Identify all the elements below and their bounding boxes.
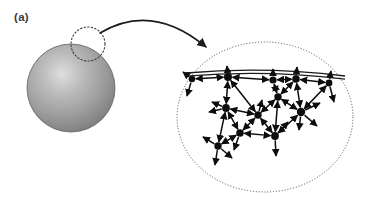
particle-group <box>27 44 115 132</box>
dangling-bond <box>305 115 317 126</box>
figure-panel-a: (a) <box>0 0 369 202</box>
network-edge <box>300 80 325 83</box>
network-edge <box>275 101 277 131</box>
dangling-bond <box>259 100 262 111</box>
magnified-surface-ellipse <box>177 42 353 192</box>
network-node <box>214 142 221 149</box>
network-node <box>271 132 279 140</box>
magnification-arrow-icon <box>100 20 206 47</box>
network-edge <box>297 83 301 107</box>
magnified-view-group <box>177 42 353 192</box>
dangling-bond <box>215 150 217 165</box>
network-edge <box>230 109 254 114</box>
network-edge <box>219 112 225 142</box>
network-node <box>274 93 281 100</box>
nanoparticle-sphere <box>27 44 115 132</box>
network-edge <box>274 84 277 93</box>
network-node <box>326 80 333 87</box>
network-node <box>189 76 196 83</box>
network-node <box>297 108 305 116</box>
dangling-bond <box>330 87 334 102</box>
dangling-bond <box>209 109 222 112</box>
network-edge <box>244 133 270 135</box>
dangling-bond <box>212 102 222 106</box>
magnification-arrow-group <box>100 20 206 47</box>
dangling-bond <box>275 140 276 156</box>
network-edge <box>261 118 273 132</box>
dangling-bond <box>299 117 300 130</box>
nanoparticle-surface-diagram <box>0 0 369 202</box>
network-edge <box>261 100 275 112</box>
dangling-bond <box>296 67 297 75</box>
network-node <box>254 111 261 118</box>
dangling-bond <box>227 66 228 73</box>
dangling-bond <box>305 103 320 110</box>
network-node <box>236 129 244 137</box>
dangling-bond <box>234 137 239 150</box>
network-edge <box>282 99 298 109</box>
dangling-bond <box>203 137 214 144</box>
network-node <box>292 75 300 83</box>
network-edge <box>243 118 255 130</box>
network-node <box>269 76 276 83</box>
dangling-bond <box>187 83 191 96</box>
dangling-bond <box>221 149 232 158</box>
network-edge <box>281 82 293 94</box>
network-edge <box>222 135 237 144</box>
network-edge <box>196 77 224 79</box>
network-edge <box>231 81 256 112</box>
network-edge <box>226 81 227 103</box>
network-edge <box>277 79 292 80</box>
network-edge <box>232 77 268 79</box>
network-node <box>224 73 232 81</box>
network-node <box>222 104 230 112</box>
network-edge <box>228 112 238 129</box>
dangling-bond <box>278 122 288 133</box>
